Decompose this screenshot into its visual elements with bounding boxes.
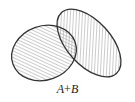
set-b-label: B xyxy=(71,82,78,96)
operator-label: + xyxy=(64,82,71,96)
set-a-label: A xyxy=(57,82,64,96)
diagram-caption: A+B xyxy=(0,82,135,97)
